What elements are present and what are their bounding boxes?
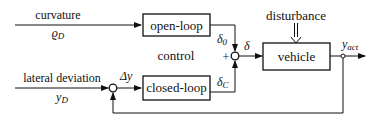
curvature-input: curvature ϱD <box>15 8 141 41</box>
lateral-deviation-input: lateral deviation yD <box>15 71 108 105</box>
delta-label: δ <box>244 39 250 53</box>
vehicle-label: vehicle <box>278 49 316 64</box>
curvature-symbol: ϱD <box>52 26 65 41</box>
closed-loop-label: closed-loop <box>146 80 207 95</box>
delta-0-label: δ0 <box>217 32 228 47</box>
closed-loop-block: closed-loop <box>143 76 210 100</box>
control-label: control <box>158 48 195 63</box>
delta-c-label: δC <box>217 75 230 90</box>
disturbance-label: disturbance <box>266 8 326 23</box>
vehicle-block: vehicle <box>263 43 330 70</box>
disturbance-arrow <box>291 23 301 43</box>
open-loop-label: open-loop <box>150 18 203 33</box>
summing-junction-deviation <box>109 84 117 92</box>
curvature-label: curvature <box>35 8 80 22</box>
plus-sign: + <box>223 50 230 64</box>
open-loop-block: open-loop <box>143 14 210 36</box>
summing-junction-steering <box>231 52 239 60</box>
lateral-deviation-label: lateral deviation <box>23 71 101 85</box>
lateral-deviation-symbol: yD <box>55 90 68 105</box>
delta-y-label: Δy <box>119 69 133 83</box>
output-tap-point <box>341 54 345 58</box>
y-act-label: yact <box>341 37 359 52</box>
control-block-diagram: curvature ϱD open-loop δ0 control + δ di… <box>0 0 380 123</box>
